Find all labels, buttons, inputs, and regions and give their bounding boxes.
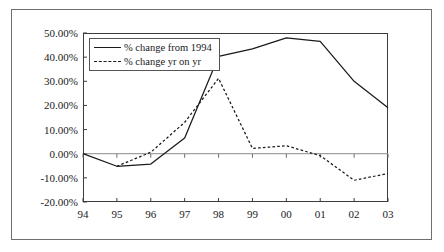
chart-legend: % change from 1994 % change yr on yr <box>89 38 220 71</box>
figure-outer-frame: 50.00%40.00%30.00%20.00%10.00%0.00%-10.0… <box>11 9 432 240</box>
x-tick-marks <box>83 154 388 202</box>
x-tick-label: 03 <box>383 209 394 220</box>
x-tick-label: 98 <box>213 209 224 220</box>
legend-solid-line-icon <box>93 43 122 53</box>
legend-item-1: % change yr on yr <box>93 55 216 69</box>
x-tick-label: 97 <box>179 209 190 220</box>
x-tick-label: 99 <box>247 209 258 220</box>
legend-label-0: % change from 1994 <box>124 42 212 54</box>
line-chart: 50.00%40.00%30.00%20.00%10.00%0.00%-10.0… <box>0 0 444 252</box>
x-tick-label: 00 <box>281 209 292 220</box>
legend-label-1: % change yr on yr <box>124 56 201 68</box>
y-tick-marks <box>83 33 87 202</box>
x-tick-label: 94 <box>78 209 89 220</box>
x-tick-label: 02 <box>349 209 360 220</box>
x-tick-label: 96 <box>145 209 156 220</box>
x-tick-label: 01 <box>315 209 326 220</box>
legend-dashed-line-icon <box>93 57 122 67</box>
legend-item-0: % change from 1994 <box>93 41 216 55</box>
x-tick-label: 95 <box>111 209 122 220</box>
series-line-pct-change-yr-on-yr <box>117 78 388 180</box>
